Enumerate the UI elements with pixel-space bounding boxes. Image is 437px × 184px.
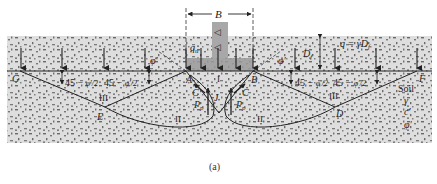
angle-right-2: 45 − φ′/2 (333, 77, 366, 88)
zone-II-right: II (257, 114, 263, 124)
phi-right-label: φ′ (278, 55, 287, 66)
zone-III-left: III (99, 93, 108, 103)
soil-c: c′ (404, 106, 411, 117)
angle-right-1: 45 − φ′/2 (295, 77, 328, 88)
point-D: D (335, 108, 344, 119)
point-G: G (12, 73, 19, 84)
angle-left-1: 45 − φ′/2 (65, 77, 98, 88)
column-symbol: ◁ (214, 27, 221, 37)
C-left: C (192, 87, 199, 98)
soil-title: Soil (398, 83, 414, 94)
soil-phi: φ′ (404, 119, 413, 130)
zone-I: I (217, 74, 220, 84)
point-J: J (214, 92, 219, 103)
phi-left-label: φ′ (150, 55, 159, 66)
point-B: B (251, 74, 257, 85)
zone-II-left: II (175, 114, 181, 124)
bearing-capacity-figure: ◁ ◁ B qu Df q = γDf φ′ φ′ (0, 0, 437, 184)
angle-left-2: 45 − φ′/2 (104, 77, 137, 88)
dim-label: B (215, 8, 222, 20)
figure-caption: (a) (209, 161, 220, 172)
point-F: F (418, 73, 426, 84)
footing (186, 58, 253, 71)
point-E: E (96, 111, 103, 122)
C-right: C (242, 87, 249, 98)
point-A: A (185, 74, 193, 85)
zone-III-right: III (329, 91, 338, 101)
failure-diagram: ◁ ◁ B qu Df q = γDf φ′ φ′ (0, 0, 437, 184)
